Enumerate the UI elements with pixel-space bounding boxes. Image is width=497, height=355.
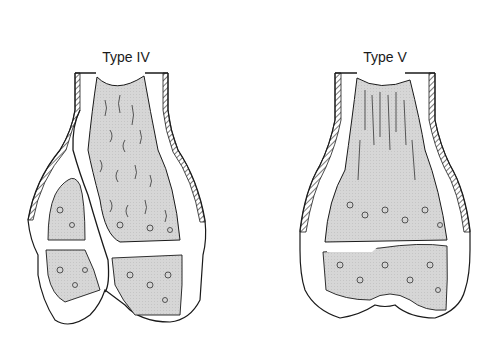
bone-illustrations [0,0,497,355]
type-iv-bone [28,73,206,324]
type-v-bone [300,73,470,318]
